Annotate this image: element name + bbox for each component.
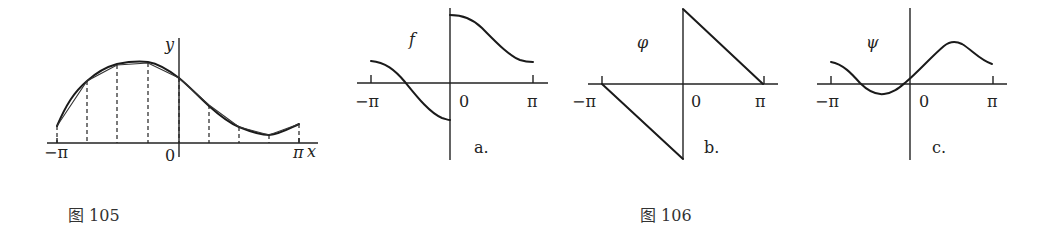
caption-figure-106: 图 106 (640, 206, 692, 225)
figure-105-plot: y x −π 0 π (44, 35, 318, 165)
function-label-psi: ψ (866, 33, 879, 52)
panel-label-c: c. (932, 138, 946, 157)
caption-figure-105: 图 105 (68, 206, 120, 225)
figure-106c-plot: ψ −π 0 π c. (815, 8, 1007, 160)
function-label-f: f (408, 30, 418, 49)
tick-label-origin: 0 (919, 92, 929, 111)
figure-canvas: y x −π 0 π 图 105 f −π 0 π a. φ −π 0 π b.… (0, 0, 1038, 247)
tick-label-origin: 0 (691, 92, 701, 111)
tick-label-pi: π (755, 92, 766, 111)
figure-106b-plot: φ −π 0 π b. (572, 9, 778, 159)
figure-106a-plot: f −π 0 π a. (355, 8, 548, 160)
phi-left-branch (602, 84, 683, 159)
function-label-phi: φ (637, 33, 649, 52)
phi-right-branch (683, 9, 763, 84)
tick-label-origin: 0 (459, 92, 469, 111)
tick-label-neg-pi: −π (44, 143, 68, 162)
f-right-branch (450, 15, 533, 62)
panel-label-a: a. (474, 138, 489, 157)
tick-label-origin: 0 (165, 146, 175, 165)
smooth-curve (57, 62, 299, 135)
tick-label-pi: π (987, 92, 998, 111)
y-axis-label: y (164, 35, 175, 54)
psi-curve (831, 42, 992, 94)
f-left-branch (371, 61, 450, 120)
panel-label-b: b. (704, 138, 719, 157)
polygonal-approximation (57, 63, 299, 135)
tick-label-pi: π (292, 143, 304, 162)
tick-label-neg-pi: −π (355, 92, 379, 111)
tick-label-pi: π (527, 92, 538, 111)
tick-label-neg-pi: −π (815, 92, 839, 111)
tick-label-neg-pi: −π (572, 92, 596, 111)
x-axis-label: x (307, 142, 316, 161)
